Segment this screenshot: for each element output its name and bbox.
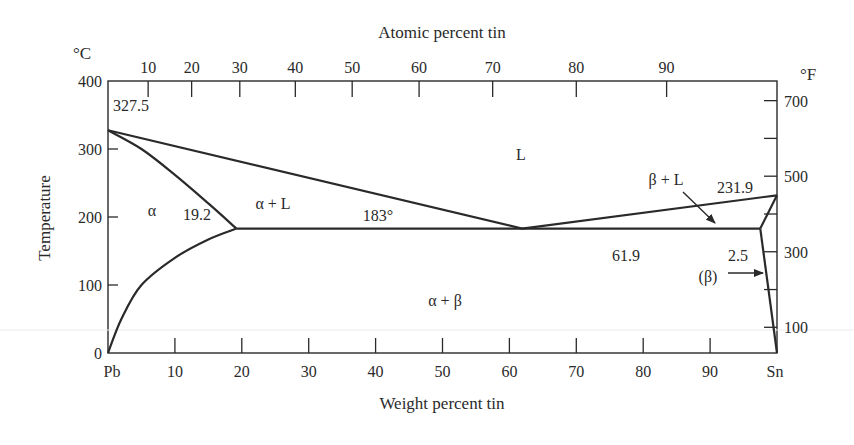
x2-tick-label: 90 — [659, 59, 675, 76]
y-tick-label: 0 — [94, 345, 102, 362]
left-axis-title: Temperature — [35, 175, 54, 261]
x-tick-label: 70 — [568, 363, 584, 380]
y2-tick-label: 100 — [784, 319, 808, 336]
top-axis-title: Atomic percent tin — [378, 23, 506, 42]
bottom-axis-title: Weight percent tin — [379, 394, 505, 413]
x-tick-label: 80 — [635, 363, 651, 380]
x-tick-label: 50 — [435, 363, 451, 380]
x-tick-label: 10 — [167, 363, 183, 380]
y2-tick-label: 300 — [784, 244, 808, 261]
annotation-label: 61.9 — [612, 247, 640, 264]
left-y-axis: 0100200300400 — [78, 73, 118, 362]
x2-tick-label: 20 — [184, 59, 200, 76]
x-tick-label: 60 — [501, 363, 517, 380]
y-tick-label: 200 — [78, 209, 102, 226]
phase-diagram-chart: Pb102030405060708090Sn 10203040506070809… — [0, 0, 854, 445]
beta-solidus-line — [760, 195, 777, 228]
annotation-label: (β) — [699, 268, 718, 286]
annotation-label: 231.9 — [717, 179, 753, 196]
x2-tick-label: 60 — [411, 59, 427, 76]
bottom-x-axis: Pb102030405060708090Sn — [104, 338, 784, 380]
y-tick-label: 400 — [78, 73, 102, 90]
x-tick-label: Pb — [104, 363, 121, 380]
annotation-label: 327.5 — [113, 97, 149, 114]
x2-tick-label: 70 — [485, 59, 501, 76]
annotation-label: L — [516, 146, 526, 163]
x2-tick-label: 50 — [344, 59, 360, 76]
phase-boundaries — [108, 130, 777, 353]
x-tick-label: 30 — [301, 363, 317, 380]
annotation-label: 19.2 — [183, 206, 211, 223]
annotation-label: α + L — [255, 195, 290, 212]
liquidus-left-line — [108, 130, 522, 228]
annotation-label: β + L — [649, 171, 684, 189]
y-tick-label: 100 — [78, 277, 102, 294]
beta-solvus-line — [760, 229, 777, 353]
x-tick-label: 40 — [368, 363, 384, 380]
x-tick-label: 20 — [234, 363, 250, 380]
y2-tick-label: 700 — [784, 93, 808, 110]
celsius-unit: °C — [73, 44, 91, 63]
plot-frame — [0, 81, 854, 353]
annotation-label: α + β — [428, 292, 462, 310]
x-tick-label: Sn — [767, 363, 784, 380]
y2-tick-label: 500 — [784, 168, 808, 185]
y-tick-label: 300 — [78, 141, 102, 158]
x2-tick-label: 80 — [568, 59, 584, 76]
annotation-label: α — [148, 202, 157, 219]
top-x-axis: 102030405060708090 — [140, 59, 674, 97]
x2-tick-label: 10 — [140, 59, 156, 76]
annotation-label: 183° — [363, 207, 393, 224]
x-tick-label: 90 — [702, 363, 718, 380]
liquidus-right-line — [522, 195, 777, 228]
alpha-solvus-line — [108, 229, 236, 353]
x2-tick-label: 40 — [287, 59, 303, 76]
fahrenheit-unit: °F — [800, 65, 816, 84]
pointer-arrows — [683, 192, 763, 273]
annotation-label: 2.5 — [728, 247, 748, 264]
x2-tick-label: 30 — [232, 59, 248, 76]
